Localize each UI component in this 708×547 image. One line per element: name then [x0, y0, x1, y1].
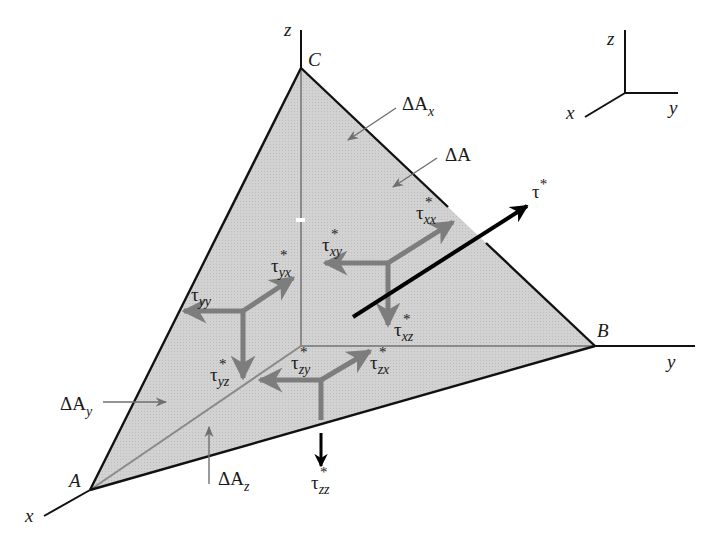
axis-label-x: x — [24, 505, 34, 526]
axis-label-z: z — [283, 19, 292, 40]
area-label-delta-ay: ΔAy — [60, 393, 93, 419]
triad-label-x: x — [565, 102, 575, 123]
stress-label-tau-yx-star: * — [280, 247, 288, 263]
coordinate-triad — [585, 30, 678, 117]
highlight-mark — [296, 218, 305, 222]
area-label-delta-ax: ΔAx — [402, 93, 435, 119]
stress-label-tau-zz-star: * — [320, 464, 328, 480]
area-label-delta-az: ΔAz — [218, 468, 250, 494]
axis-label-y: y — [665, 351, 676, 372]
stress-label-tau-xy-star: * — [331, 226, 339, 242]
diagram-canvas: z y x C B A z y x ΔAx ΔA ΔAy ΔAz — [0, 0, 708, 547]
vertex-label-a: A — [67, 470, 81, 491]
oblique-face-abc — [90, 68, 595, 490]
stress-label-tau-zx-star: * — [379, 344, 387, 360]
vertex-label-b: B — [597, 320, 609, 341]
vertex-label-c: C — [308, 49, 321, 70]
area-label-delta-a: ΔA — [445, 144, 471, 165]
stress-label-tau-xz-star: * — [403, 311, 411, 327]
stress-label-tau-xx-star: * — [425, 194, 433, 210]
stress-tetrahedron-figure: z y x C B A z y x ΔAx ΔA ΔAy ΔAz — [0, 0, 708, 547]
triad-label-y: y — [667, 97, 678, 118]
stress-label-tau-star: τ* — [532, 176, 547, 202]
stress-label-tau-yz-star: * — [219, 356, 227, 372]
stress-label-tau-zy-star: * — [300, 344, 308, 360]
triad-label-z: z — [606, 28, 615, 49]
